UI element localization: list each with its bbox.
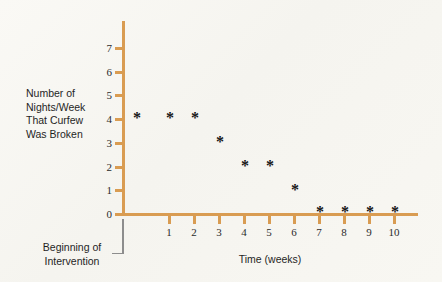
- x-tick-6: [293, 216, 296, 224]
- y-tick-0: [115, 213, 123, 216]
- y-tick-label-7: 7: [92, 43, 112, 54]
- data-point-week-8: *: [338, 204, 352, 218]
- data-point-week-1: *: [163, 110, 177, 124]
- y-tick-label-2: 2: [92, 162, 112, 173]
- x-tick-label-3: 3: [208, 227, 230, 238]
- x-tick-1: [168, 216, 171, 224]
- y-tick-6: [115, 71, 123, 74]
- x-tick-label-5: 5: [258, 227, 280, 238]
- data-point-week-2: *: [188, 110, 202, 124]
- beginning-of-intervention-annotation: Beginning of Intervention: [32, 241, 112, 268]
- intervention-leader-vertical-line: [122, 219, 124, 254]
- x-tick-label-4: 4: [233, 227, 255, 238]
- x-tick-5: [268, 216, 271, 224]
- x-tick-4: [243, 216, 246, 224]
- data-point-week-9: *: [363, 204, 377, 218]
- y-tick-label-0: 0: [92, 209, 112, 220]
- data-point-week-10: *: [388, 204, 402, 218]
- y-tick-label-6: 6: [92, 67, 112, 78]
- data-point-week-5: *: [263, 158, 277, 172]
- y-tick-7: [115, 47, 123, 50]
- y-tick-1: [115, 189, 123, 192]
- x-tick-2: [193, 216, 196, 224]
- y-tick-3: [115, 142, 123, 145]
- intervention-label-line-1: Beginning of: [32, 241, 112, 255]
- y-axis-title-line-3: That Curfew: [26, 114, 106, 128]
- x-axis-title: Time (weeks): [210, 253, 330, 265]
- x-tick-label-7: 7: [308, 227, 330, 238]
- data-point-week-3: *: [213, 134, 227, 148]
- x-tick-label-6: 6: [283, 227, 305, 238]
- data-point-week-7: *: [313, 204, 327, 218]
- intervention-leader-horizontal-line: [112, 253, 124, 255]
- x-tick-label-2: 2: [183, 227, 205, 238]
- x-tick-label-1: 1: [158, 227, 180, 238]
- data-point-baseline: *: [130, 110, 144, 124]
- x-tick-label-10: 10: [383, 227, 405, 238]
- y-axis-title-line-2: Nights/Week: [26, 101, 106, 115]
- y-tick-label-1: 1: [92, 185, 112, 196]
- y-tick-5: [115, 94, 123, 97]
- y-axis-title-line-1: Number of: [26, 87, 106, 101]
- x-tick-label-8: 8: [333, 227, 355, 238]
- chart-figure: 7 6 5 4 3 2 1 0 1 2 3 4 5 6 7 8 9 10 * *…: [0, 0, 442, 282]
- y-tick-4: [115, 118, 123, 121]
- data-point-week-6: *: [288, 182, 302, 196]
- y-tick-2: [115, 166, 123, 169]
- y-axis-title-line-4: Was Broken: [26, 128, 106, 142]
- x-tick-3: [218, 216, 221, 224]
- intervention-label-line-2: Intervention: [32, 255, 112, 269]
- y-axis-title: Number of Nights/Week That Curfew Was Br…: [26, 87, 106, 141]
- x-tick-label-9: 9: [358, 227, 380, 238]
- data-point-week-4: *: [238, 158, 252, 172]
